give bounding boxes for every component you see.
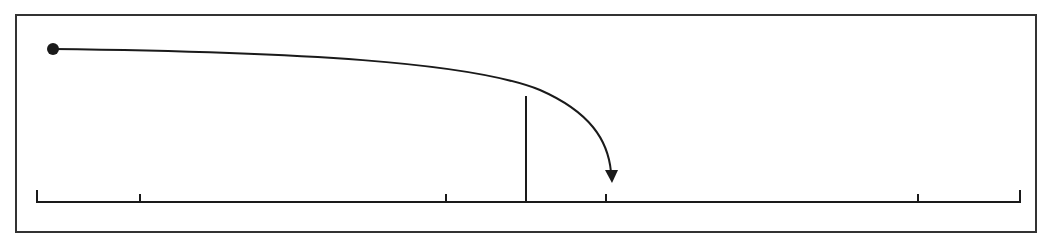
trajectory-diagram: [0, 0, 1050, 241]
start-point-dot: [47, 43, 59, 55]
trajectory-curve: [53, 49, 611, 172]
arrowhead-icon: [605, 170, 618, 183]
